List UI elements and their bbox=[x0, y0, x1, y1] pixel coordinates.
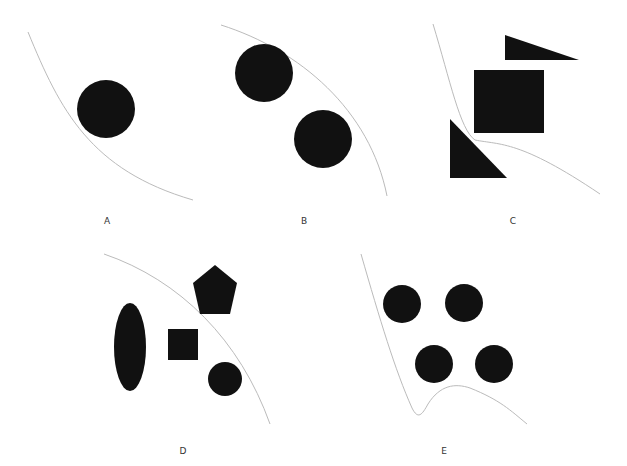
panel-d bbox=[104, 254, 270, 424]
panel-label-a: A bbox=[97, 216, 117, 226]
square-d bbox=[168, 329, 198, 360]
circle-e4 bbox=[475, 345, 513, 383]
panel-label-d: D bbox=[173, 446, 193, 456]
diagram-canvas bbox=[0, 0, 627, 466]
circle-e1 bbox=[383, 285, 421, 323]
panel-label-e: E bbox=[434, 446, 454, 456]
panel-label-b: B bbox=[294, 216, 314, 226]
pentagon-d bbox=[193, 265, 237, 314]
panel-label-c: C bbox=[503, 216, 523, 226]
panel-b bbox=[221, 25, 387, 196]
circle-d bbox=[208, 362, 242, 396]
panel-e bbox=[361, 254, 527, 424]
circle-b2 bbox=[294, 110, 352, 168]
ellipse-d bbox=[114, 303, 146, 391]
circle-a bbox=[77, 80, 135, 138]
panel-c bbox=[433, 24, 600, 194]
circle-b1 bbox=[235, 44, 293, 102]
square-c bbox=[474, 70, 544, 133]
circle-e2 bbox=[445, 284, 483, 322]
panel-a bbox=[28, 32, 193, 200]
curve-e bbox=[361, 254, 527, 424]
circle-e3 bbox=[415, 345, 453, 383]
triangle-c-top bbox=[505, 35, 579, 60]
